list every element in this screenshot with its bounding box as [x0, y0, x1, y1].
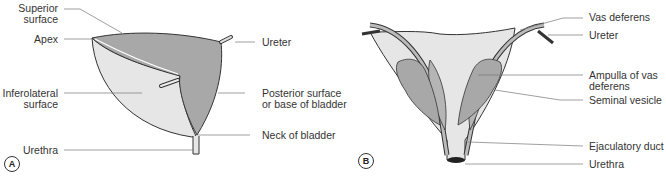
label-ejaculatory-duct: Ejaculatory duct	[589, 141, 664, 152]
panel-tag-b: B	[358, 153, 374, 169]
label-line: surface	[0, 99, 58, 110]
label-line: deferens	[589, 81, 658, 92]
label-posterior-surface: Posterior surface or base of bladder	[262, 88, 347, 110]
label-neck-of-bladder: Neck of bladder	[262, 130, 336, 141]
panel-tag-a: A	[4, 156, 20, 172]
anatomy-figure: Superior surface Apex Inferolateral surf…	[0, 0, 666, 176]
label-superior-surface: Superior surface	[0, 3, 58, 25]
label-urethra-b: Urethra	[589, 159, 624, 170]
label-vas-deferens: Vas deferens	[589, 12, 650, 23]
label-line: surface	[0, 14, 58, 25]
label-ureter-b: Ureter	[589, 30, 618, 41]
bladder-lateral-drawing	[92, 33, 231, 154]
label-line: or base of bladder	[262, 99, 347, 110]
label-seminal-vesicle: Seminal vesicle	[589, 95, 662, 106]
label-ureter-a: Ureter	[262, 37, 291, 48]
label-inferolateral-surface: Inferolateral surface	[0, 88, 58, 110]
label-apex: Apex	[0, 34, 58, 45]
bladder-posterior-drawing	[362, 25, 553, 163]
label-urethra-a: Urethra	[0, 145, 58, 156]
label-ampulla-of-vas-deferens: Ampulla of vas deferens	[589, 70, 658, 92]
